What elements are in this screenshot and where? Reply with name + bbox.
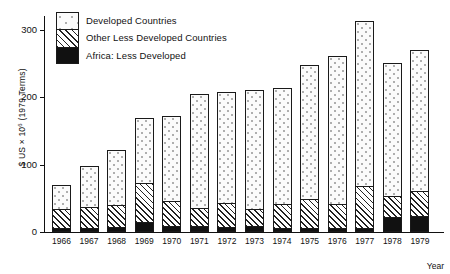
bar-segment-other-less-developed-1970 bbox=[163, 201, 180, 226]
bar-segment-other-less-developed-1966 bbox=[53, 209, 70, 228]
bar-segment-africa-1967 bbox=[81, 228, 98, 231]
legend-label-africa-less-developed: Africa: Less Developed bbox=[86, 50, 186, 61]
y-axis-tick-label: 200 bbox=[0, 91, 37, 102]
bar-1975 bbox=[300, 65, 319, 232]
legend-swatch-hatch-icon bbox=[56, 29, 79, 46]
bar-1972 bbox=[217, 92, 236, 232]
bar-1971 bbox=[190, 94, 209, 232]
bar-segment-africa-1975 bbox=[301, 228, 318, 231]
bar-segment-other-less-developed-1977 bbox=[356, 186, 373, 229]
bar-segment-africa-1974 bbox=[274, 228, 291, 231]
bar-segment-africa-1970 bbox=[163, 226, 180, 231]
bar-segment-other-less-developed-1978 bbox=[384, 196, 401, 217]
bar-segment-other-less-developed-1975 bbox=[301, 199, 318, 228]
bar-segment-africa-1977 bbox=[356, 228, 373, 231]
bar-segment-africa-1976 bbox=[329, 228, 346, 231]
bar-segment-africa-1969 bbox=[136, 222, 153, 231]
legend-swatch-dotted-icon bbox=[56, 12, 79, 29]
bar-segment-developed-1974 bbox=[274, 89, 291, 205]
y-axis-tick-label: 0 bbox=[0, 226, 37, 237]
stacked-bar-chart: $ US × 106 (1979 Terms) 0100200300 19661… bbox=[0, 0, 450, 274]
bar-1969 bbox=[135, 118, 154, 232]
bar-segment-other-less-developed-1967 bbox=[81, 207, 98, 227]
bar-segment-other-less-developed-1968 bbox=[108, 205, 125, 227]
y-axis-tick-label: 100 bbox=[0, 159, 37, 170]
x-axis-line bbox=[44, 232, 444, 233]
bar-segment-developed-1966 bbox=[53, 186, 70, 209]
bar-segment-other-less-developed-1969 bbox=[136, 183, 153, 223]
legend-item-other-less-developed-countries: Other Less Developed Countries bbox=[56, 29, 227, 46]
bar-segment-other-less-developed-1972 bbox=[218, 203, 235, 227]
x-axis-tick-label-1979: 1979 bbox=[403, 236, 437, 246]
y-axis-tick bbox=[40, 232, 45, 233]
bar-segment-developed-1977 bbox=[356, 22, 373, 186]
legend-swatch-black-icon bbox=[56, 47, 79, 64]
legend-item-africa-less-developed: Africa: Less Developed bbox=[56, 47, 227, 64]
y-axis-tick-label: 300 bbox=[0, 24, 37, 35]
bar-segment-developed-1972 bbox=[218, 93, 235, 203]
bar-1970 bbox=[162, 116, 181, 232]
bar-segment-africa-1966 bbox=[53, 228, 70, 231]
bar-segment-africa-1971 bbox=[191, 226, 208, 231]
bar-1973 bbox=[245, 90, 264, 232]
bar-segment-developed-1968 bbox=[108, 151, 125, 204]
bar-segment-africa-1972 bbox=[218, 227, 235, 231]
legend-label-developed-countries: Developed Countries bbox=[86, 15, 177, 26]
bar-1968 bbox=[107, 150, 126, 232]
bar-segment-other-less-developed-1979 bbox=[411, 191, 428, 216]
bar-1978 bbox=[383, 63, 402, 232]
bar-segment-other-less-developed-1974 bbox=[274, 204, 291, 227]
bar-segment-developed-1976 bbox=[329, 57, 346, 204]
bar-1967 bbox=[80, 166, 99, 232]
bar-1977 bbox=[355, 21, 374, 232]
chart-legend: Developed Countries Other Less Developed… bbox=[56, 12, 227, 64]
bar-segment-developed-1978 bbox=[384, 64, 401, 196]
bar-segment-other-less-developed-1973 bbox=[246, 209, 263, 226]
bar-segment-other-less-developed-1976 bbox=[329, 204, 346, 228]
bar-segment-developed-1975 bbox=[301, 66, 318, 199]
bar-1976 bbox=[328, 56, 347, 232]
bar-segment-other-less-developed-1971 bbox=[191, 208, 208, 227]
bar-segment-developed-1973 bbox=[246, 91, 263, 209]
bar-segment-africa-1979 bbox=[411, 216, 428, 231]
y-axis-title-exponent: 6 bbox=[17, 123, 23, 127]
bar-segment-developed-1967 bbox=[81, 167, 98, 208]
bar-segment-developed-1969 bbox=[136, 119, 153, 183]
bar-1974 bbox=[273, 88, 292, 232]
bar-segment-developed-1970 bbox=[163, 117, 180, 201]
bar-segment-africa-1973 bbox=[246, 226, 263, 231]
bar-segment-developed-1979 bbox=[411, 51, 428, 191]
y-axis-title: $ US × 106 (1979 Terms) bbox=[17, 37, 28, 197]
bar-1979 bbox=[410, 50, 429, 232]
legend-item-developed-countries: Developed Countries bbox=[56, 12, 227, 29]
x-axis-title: Year bbox=[427, 261, 444, 271]
legend-label-other-less-developed-countries: Other Less Developed Countries bbox=[86, 32, 227, 43]
bar-segment-africa-1978 bbox=[384, 217, 401, 231]
bar-1966 bbox=[52, 185, 71, 232]
bar-segment-africa-1968 bbox=[108, 227, 125, 231]
bar-segment-developed-1971 bbox=[191, 95, 208, 208]
